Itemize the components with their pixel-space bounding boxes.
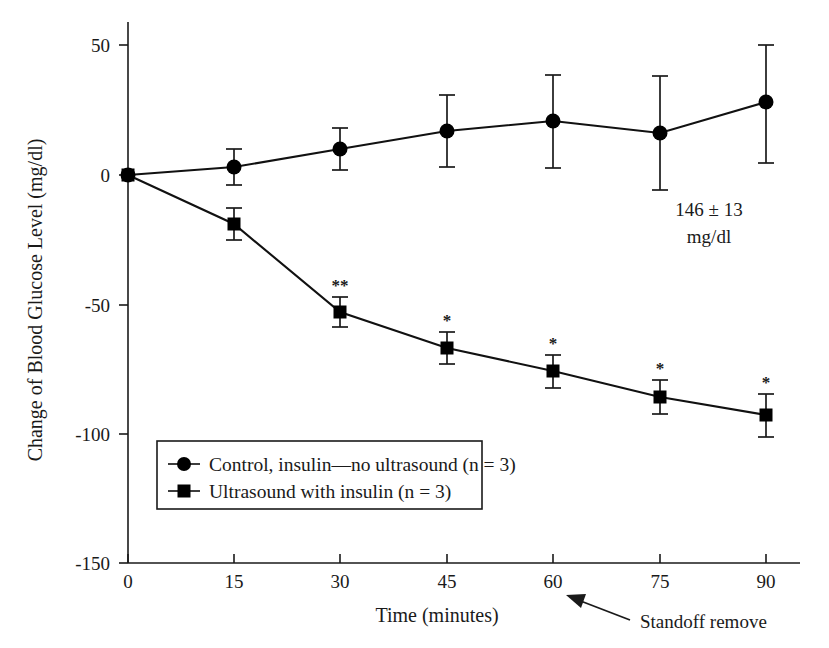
y-tick-label-50: 50 xyxy=(91,35,110,56)
data-point-control-15 xyxy=(227,160,242,175)
y-axis-ticks: 50 0 -50 -100 -150 xyxy=(75,35,128,574)
x-tick-label-45: 45 xyxy=(438,571,457,592)
data-point-control-75 xyxy=(653,126,668,141)
concentration-value: 146 ± 13 xyxy=(675,199,742,220)
legend[interactable]: Control, insulin—no ultrasound (n = 3) U… xyxy=(157,441,516,509)
standoff-arrow-line xyxy=(578,600,630,620)
data-point-control-90 xyxy=(759,95,774,110)
significance-marker-75: * xyxy=(656,359,665,378)
legend-label-control: Control, insulin—no ultrasound (n = 3) xyxy=(209,454,516,476)
x-axis-ticks: 0 15 30 45 60 75 90 xyxy=(123,554,775,592)
glucose-line-chart: 50 0 -50 -100 -150 0 15 30 45 60 75 90 C… xyxy=(0,0,829,648)
x-tick-label-90: 90 xyxy=(757,571,776,592)
concentration-units: mg/dl xyxy=(687,226,731,247)
data-point-ultrasound-60 xyxy=(547,365,560,378)
y-tick-label-m150: -150 xyxy=(75,553,110,574)
significance-marker-90: * xyxy=(762,373,771,392)
x-tick-label-30: 30 xyxy=(331,571,350,592)
significance-marker-30: ** xyxy=(332,276,349,295)
standoff-remove-label: Standoff remove xyxy=(640,611,767,632)
significance-marker-45: * xyxy=(443,311,452,330)
legend-entry-control[interactable]: Control, insulin—no ultrasound (n = 3) xyxy=(168,454,516,476)
data-point-control-30 xyxy=(333,142,348,157)
y-axis-title: Change of Blood Glucose Level (mg/dl) xyxy=(24,139,47,462)
x-tick-label-75: 75 xyxy=(651,571,670,592)
data-point-ultrasound-90 xyxy=(760,409,773,422)
x-tick-label-0: 0 xyxy=(123,571,133,592)
data-point-ultrasound-45 xyxy=(441,342,454,355)
legend-label-ultrasound: Ultrasound with insulin (n = 3) xyxy=(209,481,451,503)
y-tick-label-m100: -100 xyxy=(75,424,110,445)
data-point-ultrasound-75 xyxy=(654,391,667,404)
legend-entry-ultrasound[interactable]: Ultrasound with insulin (n = 3) xyxy=(168,481,451,503)
data-point-control-45 xyxy=(440,124,455,139)
legend-marker-circle-icon xyxy=(177,457,191,471)
data-point-control-60 xyxy=(546,114,561,129)
figure-container: 50 0 -50 -100 -150 0 15 30 45 60 75 90 C… xyxy=(0,0,829,648)
series-control-error-bars xyxy=(226,45,774,190)
y-tick-label-m50: -50 xyxy=(85,295,110,316)
data-point-ultrasound-30 xyxy=(334,306,347,319)
data-point-ultrasound-0 xyxy=(122,169,135,182)
series-ultrasound-line xyxy=(128,175,766,415)
x-tick-label-60: 60 xyxy=(544,571,563,592)
series-control xyxy=(121,45,775,190)
standoff-remove-annotation: Standoff remove xyxy=(566,594,767,632)
y-tick-label-0: 0 xyxy=(101,165,111,186)
legend-marker-square-icon xyxy=(178,485,191,498)
significance-marker-60: * xyxy=(549,334,558,353)
x-tick-label-15: 15 xyxy=(225,571,244,592)
standoff-arrow-head xyxy=(566,594,586,608)
data-point-ultrasound-15 xyxy=(228,218,241,231)
concentration-annotation: 146 ± 13 mg/dl xyxy=(675,199,742,247)
x-axis-title: Time (minutes) xyxy=(375,604,498,627)
